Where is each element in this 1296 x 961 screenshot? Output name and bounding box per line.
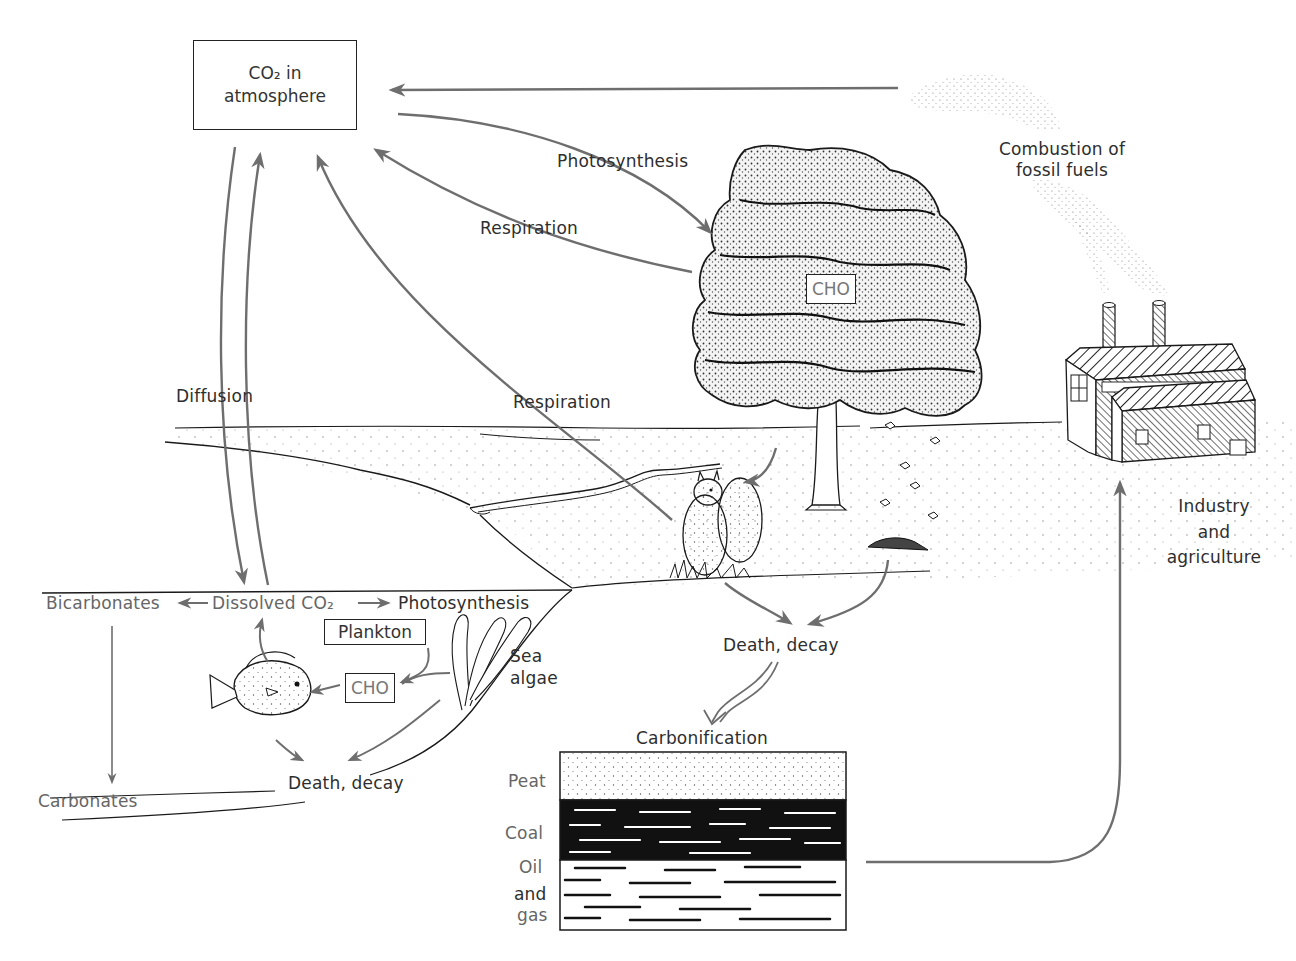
sea-algae-line1: Sea — [510, 646, 542, 666]
arrow-combustion-to-atmosphere — [392, 88, 898, 90]
ocean-photosynthesis-label: Photosynthesis — [398, 593, 529, 614]
ocean-cho-label: CHO — [351, 677, 389, 700]
combustion-line1: Combustion of — [999, 139, 1125, 159]
arrow-algae-to-decay — [350, 700, 440, 760]
dissolved-co2-label: Dissolved CO₂ — [212, 593, 334, 614]
carbonification-label: Carbonification — [636, 728, 768, 749]
industry-label: Industry and agriculture — [1154, 494, 1274, 571]
arrow-squirrel-to-decay — [725, 583, 790, 623]
sea-algae-label: Sea algae — [510, 645, 558, 689]
strata-label-peat: Peat — [508, 771, 546, 792]
sea-algae-line2: algae — [510, 668, 558, 688]
tree-cho-label: CHO — [812, 278, 850, 301]
factory-icon — [1066, 301, 1255, 463]
carbon-cycle-diagram: CO₂ in atmosphere Photosynthesis Respira… — [0, 0, 1296, 961]
strata-label-gas: gas — [517, 905, 548, 926]
plankton-box: Plankton — [324, 619, 426, 645]
land-death-decay-label: Death, decay — [723, 635, 839, 656]
tree-cho-box: CHO — [806, 274, 856, 304]
atmosphere-label-line2: atmosphere — [224, 86, 326, 106]
strata-label-coal: Coal — [505, 823, 543, 844]
diffusion-label: Diffusion — [176, 386, 253, 407]
atmosphere-label-line1: CO₂ in — [249, 63, 302, 83]
industry-line2: and — [1198, 522, 1231, 542]
ocean-death-decay-label: Death, decay — [288, 773, 404, 794]
arrow-cho-to-fish — [312, 685, 340, 692]
fossil-strata — [560, 752, 846, 930]
arrow-fish-to-dissolved — [260, 620, 268, 662]
atmosphere-box: CO₂ in atmosphere — [193, 40, 357, 130]
respiration-plants-label: Respiration — [480, 218, 578, 239]
arrow-photosynthesis — [398, 114, 710, 232]
bicarbonates-label: Bicarbonates — [46, 593, 160, 614]
industry-line3: agriculture — [1167, 547, 1261, 567]
photosynthesis-label: Photosynthesis — [557, 151, 688, 172]
ocean-cho-box: CHO — [345, 673, 395, 703]
strata-label-and: and — [514, 884, 547, 905]
arrow-fish-to-decay — [276, 740, 302, 760]
arrow-diffusion-down — [221, 147, 244, 582]
combustion-line2: fossil fuels — [1016, 160, 1108, 180]
carbonates-label: Carbonates — [38, 791, 138, 812]
plankton-label: Plankton — [338, 621, 412, 644]
combustion-label: Combustion of fossil fuels — [982, 139, 1142, 182]
strata-label-oil: Oil — [519, 857, 542, 878]
fish-icon — [210, 652, 311, 715]
industry-line1: Industry — [1178, 496, 1250, 516]
respiration-animals-label: Respiration — [513, 392, 611, 413]
arrow-diffusion-up — [246, 155, 268, 585]
arrow-decay-to-carbonification — [704, 662, 778, 724]
